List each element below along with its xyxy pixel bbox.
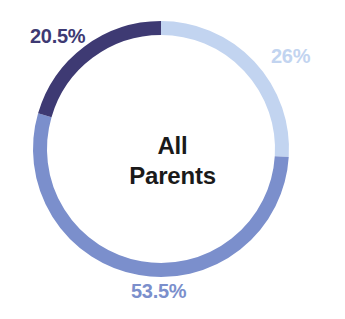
donut-slice: [40, 115, 282, 270]
donut-slice: [161, 28, 282, 157]
donut-chart: All Parents 20.5% 26% 53.5%: [0, 0, 345, 319]
donut-ring-group: [40, 28, 282, 270]
slice-label-20-5-percent: 20.5%: [30, 25, 85, 48]
slice-label-53-5-percent: 53.5%: [131, 280, 186, 303]
slice-label-26-percent: 26%: [271, 45, 310, 68]
